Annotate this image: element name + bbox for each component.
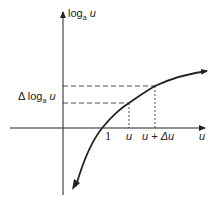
- tick-u-plus-delta: u + Δu: [142, 131, 174, 142]
- y-axis-label: loga u: [68, 8, 96, 21]
- log-diagram: loga u Δ loga u 1 u u + Δu u: [0, 0, 222, 203]
- x-axis-label: u: [199, 131, 205, 142]
- tick-one: 1: [105, 130, 111, 142]
- delta-log-label: Δ loga u: [18, 91, 56, 104]
- dashed-guides: [63, 86, 155, 128]
- curve-start-arrow-icon: [72, 179, 80, 190]
- tick-u: u: [126, 131, 132, 142]
